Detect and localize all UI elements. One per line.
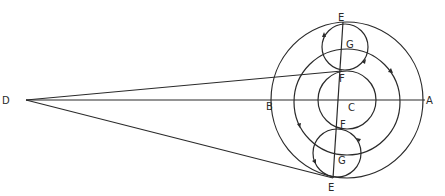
label-d: D [2, 95, 10, 106]
middle-circle [294, 49, 400, 155]
label-a: A [426, 95, 433, 106]
line-d-e [26, 100, 333, 178]
label-e-bottom: E [328, 182, 334, 193]
label-g-top: G [346, 39, 354, 50]
label-f-bottom: F [340, 119, 346, 130]
label-g-bottom: G [338, 155, 346, 166]
diagram-canvas: D A B C E E F F G G [0, 0, 445, 196]
label-e-top: E [338, 12, 344, 23]
label-b: B [266, 101, 273, 112]
upper-small-circle [322, 24, 368, 70]
lower-small-circle [313, 129, 361, 177]
label-c: C [348, 102, 355, 113]
label-f-top: F [339, 73, 345, 84]
